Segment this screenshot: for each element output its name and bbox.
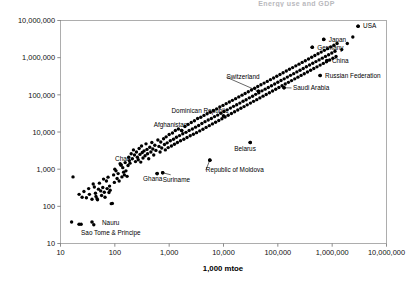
annotation-label: Suriname [163, 176, 191, 183]
data-point [112, 173, 115, 176]
data-point [150, 141, 153, 144]
data-point [298, 69, 301, 72]
data-point [139, 160, 142, 163]
x-tick-label: 1,000,000 [316, 248, 349, 257]
data-point [96, 198, 99, 201]
data-point [196, 117, 199, 120]
annotation-label: Dominican Republic [172, 107, 230, 115]
point-annotations: USAJapanGermanyChinaRussian FederationSa… [77, 22, 381, 237]
data-point [293, 77, 296, 80]
annotation-label: China [332, 57, 349, 64]
annotation-label: Chad [115, 155, 131, 162]
x-tick-label: 1,000 [160, 248, 179, 257]
data-point [147, 157, 150, 160]
data-point [249, 101, 252, 104]
data-point [133, 153, 136, 156]
data-point [292, 72, 295, 75]
data-point [170, 144, 173, 147]
data-point [94, 192, 97, 195]
data-point [312, 67, 315, 70]
annotated-data-point [222, 114, 226, 118]
data-point [85, 196, 88, 199]
data-point [241, 100, 244, 103]
data-point [217, 119, 220, 122]
data-point [302, 67, 305, 70]
data-point [247, 90, 250, 93]
data-point [175, 136, 178, 139]
annotated-data-point [325, 59, 329, 63]
data-point [174, 129, 177, 132]
data-point [316, 52, 319, 55]
data-point [321, 56, 324, 59]
data-point [113, 181, 116, 184]
y-tick-label: 100 [43, 202, 55, 211]
data-point [164, 135, 167, 138]
data-point [135, 150, 138, 153]
data-point [322, 62, 325, 65]
data-point [299, 74, 302, 77]
data-point [274, 88, 277, 91]
data-point [82, 190, 85, 193]
data-point [142, 149, 145, 152]
data-point [154, 149, 157, 152]
data-point [103, 196, 106, 199]
data-point [310, 56, 313, 59]
annotated-data-point [318, 74, 322, 78]
y-tick-label: 10,000 [32, 128, 55, 137]
data-point [202, 114, 205, 117]
data-point [167, 133, 170, 136]
data-point [203, 120, 206, 123]
data-point [93, 185, 96, 188]
data-point [273, 82, 276, 85]
data-point [201, 127, 204, 130]
data-point [140, 144, 143, 147]
data-point [105, 179, 108, 182]
data-point [240, 93, 243, 96]
axis-tick-labels: 101001,00010,000100,0001,000,00010,000,0… [18, 16, 405, 257]
data-point [98, 181, 101, 184]
data-point [297, 62, 300, 65]
data-point [290, 79, 293, 82]
plot-frame [61, 21, 387, 244]
data-point [90, 198, 93, 201]
data-point [291, 66, 294, 69]
data-point [230, 112, 233, 115]
data-point [324, 55, 327, 58]
annotation-label: Republic of Moldova [206, 166, 264, 174]
data-point [304, 59, 307, 62]
data-point [182, 138, 185, 141]
data-point [128, 161, 131, 164]
data-point [184, 131, 187, 134]
data-point [199, 116, 202, 119]
data-point [207, 118, 210, 121]
annotation-label: Belarus [234, 145, 256, 152]
annotation-label: Afghanistan [154, 121, 188, 129]
data-point [239, 107, 242, 110]
data-point [266, 80, 269, 83]
data-point [270, 84, 273, 87]
data-point [117, 179, 120, 182]
data-point [294, 64, 297, 67]
data-point [224, 102, 227, 105]
annotation-label: Nauru [102, 219, 120, 226]
data-point [159, 140, 162, 143]
data-point [243, 92, 246, 95]
data-point [131, 157, 134, 160]
data-point [187, 129, 190, 132]
data-point [153, 144, 156, 147]
data-point [204, 126, 207, 129]
data-point [252, 100, 255, 103]
annotation-label: Japan [329, 36, 347, 44]
data-point [305, 65, 308, 68]
data-point [248, 96, 251, 99]
data-point [296, 75, 299, 78]
data-point [106, 175, 109, 178]
data-point [314, 60, 317, 63]
data-point [269, 78, 272, 81]
data-point [151, 147, 154, 150]
data-points [70, 25, 360, 227]
data-point [278, 73, 281, 76]
data-point [137, 158, 140, 161]
data-point [232, 105, 235, 108]
data-point [295, 70, 298, 73]
